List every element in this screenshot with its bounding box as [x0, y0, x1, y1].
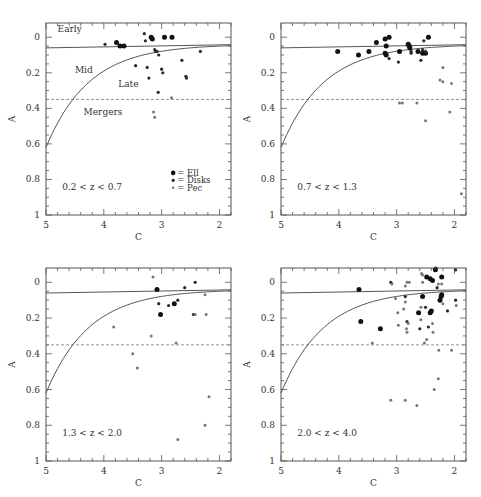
- data-point-disks: [422, 39, 425, 42]
- x-tick-label: 5: [43, 220, 49, 230]
- x-tick-label: 3: [159, 466, 165, 476]
- data-point-ell: [384, 53, 389, 58]
- data-point-pec: [437, 283, 440, 286]
- y-tick-label: 1: [269, 210, 275, 220]
- data-point-pec: [437, 377, 440, 380]
- data-point-ell: [397, 49, 402, 54]
- data-point-ell: [374, 40, 379, 45]
- data-point-pec: [112, 326, 115, 329]
- y-tick-label: 0.4: [26, 103, 41, 113]
- data-point-pec: [440, 283, 443, 286]
- data-point-disks: [424, 306, 427, 309]
- x-tick-label: 4: [336, 466, 342, 476]
- data-point-pec: [205, 313, 208, 316]
- data-point-pec: [394, 297, 397, 300]
- x-tick-label: 2: [452, 466, 458, 476]
- data-point-ell: [420, 294, 425, 299]
- data-point-pec: [150, 334, 153, 337]
- y-tick-label: 0.2: [261, 313, 275, 323]
- data-point-disks: [134, 64, 137, 67]
- data-point-disks: [404, 295, 407, 298]
- data-point-ell: [416, 49, 421, 54]
- data-point-disks: [436, 286, 439, 289]
- data-point-ell: [439, 274, 444, 279]
- data-point-pec: [406, 331, 409, 334]
- data-point-pec: [136, 367, 139, 370]
- x-tick-label: 4: [101, 220, 107, 230]
- region-label-mergers: Mergers: [84, 107, 123, 117]
- panel-2: 543200.20.40.60.81CA0.7 < z < 1.3: [242, 23, 466, 242]
- y-tick-label: 0.2: [26, 313, 40, 323]
- data-point-disks: [419, 59, 422, 62]
- data-point-pec: [424, 119, 427, 122]
- data-point-pec: [389, 399, 392, 402]
- x-tick-label: 3: [394, 220, 400, 230]
- data-point-pec: [423, 342, 426, 345]
- data-point-pec: [415, 102, 418, 105]
- data-point-pec: [404, 399, 407, 402]
- y-tick-label: 0: [269, 32, 275, 42]
- data-point-disks: [155, 50, 158, 53]
- data-point-ell: [387, 35, 392, 40]
- data-point-pec: [437, 349, 440, 352]
- data-point-disks: [161, 71, 164, 74]
- legend-label-pec: = Pec: [177, 183, 202, 193]
- data-point-pec: [152, 275, 155, 278]
- data-point-ell: [378, 326, 383, 331]
- redshift-range-label: 2.0 < z < 4.0: [297, 428, 357, 438]
- data-point-ell: [162, 35, 167, 40]
- y-tick-label: 0.6: [26, 139, 41, 149]
- data-point-pec: [450, 82, 453, 85]
- legend-marker-pec: [172, 187, 175, 190]
- legend-marker-ell: [171, 171, 176, 176]
- figure: 543200.20.40.60.81CAEarlyMidLateMergers=…: [0, 0, 481, 497]
- data-point-disks: [454, 268, 457, 271]
- data-point-disks: [454, 299, 457, 302]
- data-point-pec: [175, 342, 178, 345]
- data-point-pec: [415, 404, 418, 407]
- data-point-pec: [405, 327, 408, 330]
- data-point-disks: [434, 266, 437, 269]
- data-point-ell: [384, 44, 389, 49]
- y-axis-label: A: [7, 115, 17, 123]
- data-point-ell: [122, 44, 127, 49]
- data-point-disks: [180, 59, 183, 62]
- x-tick-label: 3: [159, 220, 165, 230]
- data-point-disks: [185, 77, 188, 80]
- data-point-pec: [407, 322, 410, 325]
- y-axis-label: A: [242, 115, 252, 123]
- y-tick-label: 0.8: [26, 174, 41, 184]
- data-point-disks: [194, 281, 197, 284]
- mid-late-boundary-curve: [46, 291, 231, 393]
- data-point-disks: [144, 39, 147, 42]
- data-point-pec: [431, 322, 434, 325]
- data-point-ell: [155, 287, 160, 292]
- data-point-ell: [430, 278, 435, 283]
- data-point-pec: [204, 293, 207, 296]
- y-tick-label: 0.2: [261, 68, 275, 78]
- data-point-pec: [450, 349, 453, 352]
- data-point-disks: [160, 68, 163, 71]
- data-point-pec: [153, 116, 156, 119]
- data-point-disks: [418, 327, 421, 330]
- region-label-early: Early: [58, 24, 83, 34]
- x-tick-label: 2: [452, 220, 458, 230]
- x-tick-label: 2: [217, 220, 223, 230]
- x-tick-label: 2: [217, 466, 223, 476]
- data-point-ell: [358, 319, 363, 324]
- x-axis-label: C: [135, 232, 142, 242]
- y-tick-label: 1: [34, 210, 40, 220]
- y-tick-label: 0: [269, 277, 275, 287]
- data-point-ell: [170, 35, 175, 40]
- data-point-ell: [438, 298, 443, 303]
- y-tick-label: 0.2: [26, 68, 40, 78]
- y-tick-label: 0.4: [26, 349, 41, 359]
- panel-4: 543200.20.40.60.81CA2.0 < z < 4.0: [242, 266, 466, 488]
- x-tick-label: 3: [394, 466, 400, 476]
- data-point-pec: [402, 308, 405, 311]
- data-point-pec: [391, 283, 394, 286]
- y-tick-label: 0.6: [261, 385, 276, 395]
- data-point-pec: [408, 281, 411, 284]
- data-point-ell: [416, 310, 421, 315]
- y-tick-label: 0.8: [261, 174, 276, 184]
